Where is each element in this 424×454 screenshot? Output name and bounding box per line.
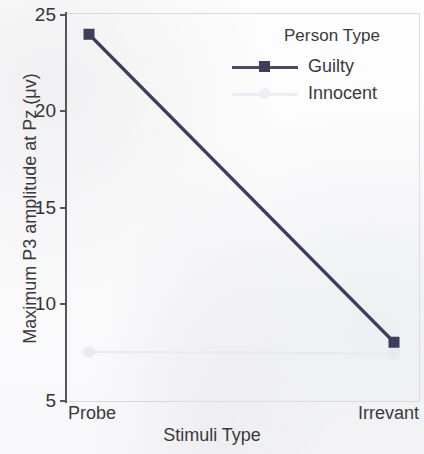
legend-item-guilty[interactable]: Guilty bbox=[228, 53, 418, 80]
series-innocent bbox=[83, 346, 400, 360]
data-point-guilty-irrevant bbox=[389, 337, 400, 348]
legend: Person Type Guilty Innocent bbox=[228, 26, 418, 107]
data-point-innocent-probe bbox=[83, 346, 95, 358]
x-tick-label-irrevant: Irrevant bbox=[358, 403, 419, 424]
legend-label-innocent: Innocent bbox=[302, 83, 377, 104]
x-axis-title: Stimuli Type bbox=[0, 425, 424, 446]
legend-item-innocent[interactable]: Innocent bbox=[228, 80, 418, 107]
y-axis-title: Maximum P3 amplitude at Pz (μv) bbox=[20, 9, 41, 409]
legend-label-guilty: Guilty bbox=[302, 56, 354, 77]
data-point-innocent-irrevant bbox=[388, 348, 400, 360]
legend-marker-circle-icon bbox=[259, 88, 270, 99]
legend-swatch-guilty bbox=[228, 57, 302, 77]
legend-title: Person Type bbox=[246, 26, 418, 46]
x-tick-label-probe: Probe bbox=[68, 403, 116, 424]
data-point-guilty-probe bbox=[84, 29, 95, 40]
legend-marker-square-icon bbox=[259, 61, 270, 72]
chart-figure: 25 20 15 10 5 Person Type Guilty Innocen… bbox=[0, 0, 424, 454]
series-line-innocent bbox=[89, 352, 394, 354]
legend-swatch-innocent bbox=[228, 84, 302, 104]
